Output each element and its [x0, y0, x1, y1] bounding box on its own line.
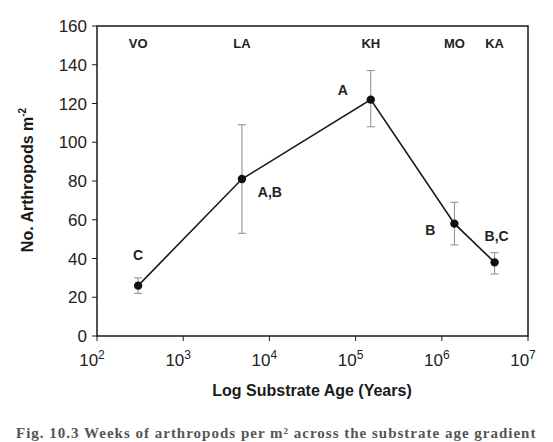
y-tick-label: 120 [59, 95, 87, 114]
data-point [238, 175, 246, 183]
group-label: C [133, 247, 143, 263]
x-axis-ticks: 102103104105106107 [79, 336, 536, 370]
group-label: A [338, 82, 348, 98]
site-label: KH [361, 36, 380, 51]
data-point [490, 258, 498, 266]
y-tick-label: 40 [68, 250, 87, 269]
y-tick-label: 0 [78, 327, 87, 346]
group-label: B,C [485, 228, 509, 244]
site-labels: VOLAKHMOKA [129, 36, 505, 51]
site-label: KA [485, 36, 504, 51]
site-label: LA [233, 36, 251, 51]
y-tick-label: 80 [68, 172, 87, 191]
data-markers [134, 95, 499, 289]
x-tick-label: 107 [510, 348, 536, 370]
error-bars [134, 71, 498, 294]
x-tick-label: 102 [79, 348, 105, 370]
site-label: MO [444, 36, 465, 51]
x-tick-label: 103 [165, 348, 191, 370]
group-labels: CA,BABB,C [133, 82, 509, 263]
y-tick-label: 100 [59, 133, 87, 152]
series-line [138, 100, 494, 286]
x-tick-label: 106 [424, 348, 450, 370]
y-axis-ticks: 020406080100120140160 [59, 17, 97, 346]
data-point [134, 281, 142, 289]
y-tick-label: 160 [59, 17, 87, 36]
y-tick-label: 60 [68, 211, 87, 230]
group-label: A,B [258, 184, 282, 200]
y-tick-label: 140 [59, 56, 87, 75]
figure-caption: Fig. 10.3 Weeks of arthropods per m² acr… [16, 425, 536, 442]
y-tick-label: 20 [68, 288, 87, 307]
x-axis-title: Log Substrate Age (Years) [212, 382, 411, 399]
site-label: VO [129, 36, 148, 51]
x-tick-label: 104 [252, 348, 278, 370]
group-label: B [425, 222, 435, 238]
data-point [367, 95, 375, 103]
y-axis-title: No. Arthropods m-2 [17, 107, 36, 252]
x-tick-label: 105 [338, 348, 364, 370]
data-point [450, 219, 458, 227]
plot-frame [97, 26, 528, 336]
